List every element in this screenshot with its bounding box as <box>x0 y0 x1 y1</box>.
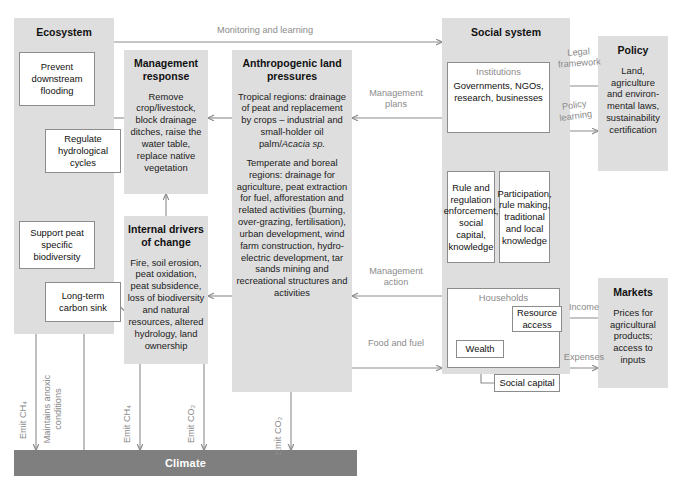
box-wealth-label: Wealth <box>465 343 494 355</box>
box-support-peat-biodiversity-label: Support peat specific biodiversity <box>22 227 92 262</box>
edge-label-management-action: Management action <box>360 266 432 288</box>
box-participation[interactable]: Participation, rule making, traditional … <box>499 171 550 263</box>
panel-social-system-title: Social system <box>442 18 570 39</box>
box-institutions[interactable]: Institutions Governments, NGOs, research… <box>447 62 550 133</box>
vlabel-maintains-anoxic-conditions: Maintains anoxic conditions <box>42 353 64 465</box>
panel-policy-body: Land, agriculture and environ-mental law… <box>602 65 664 136</box>
vlabel-emit-co2-anthropogenic: Emit CO₂ <box>273 417 284 455</box>
edge-label-legal-framework: Legal framework <box>551 45 606 71</box>
edge-label-expenses: Expenses <box>560 352 608 363</box>
box-long-term-carbon-sink-label: Long-term carbon sink <box>48 290 118 314</box>
anthropogenic-paragraph-tropical: Tropical regions: drainage of peat and r… <box>236 91 348 150</box>
box-long-term-carbon-sink[interactable]: Long-term carbon sink <box>45 282 121 322</box>
anthropogenic-acacia-species: Acacia sp. <box>282 138 325 149</box>
box-support-peat-biodiversity[interactable]: Support peat specific biodiversity <box>19 221 95 269</box>
box-resource-access[interactable]: Resource access <box>512 306 562 332</box>
climate-bar-label: Climate <box>165 457 206 469</box>
panel-anthropogenic-title: Anthropogenic land pressures <box>236 57 348 83</box>
box-prevent-downstream-flooding[interactable]: Prevent downstream flooding <box>19 52 95 106</box>
panel-management-response: Management response Remove crop/livestoc… <box>124 50 208 194</box>
box-social-capital-label: Social capital <box>499 377 554 389</box>
vlabel-emit-ch4-ecosystem: Emit CH₄ <box>18 401 29 439</box>
box-participation-label: Participation, rule making, traditional … <box>497 188 551 247</box>
panel-markets-body: Prices for agricultural products; access… <box>602 307 664 366</box>
panel-ecosystem-title: Ecosystem <box>14 18 114 39</box>
box-institutions-heading: Institutions <box>476 66 521 78</box>
panel-anthropogenic-body: Tropical regions: drainage of peat and r… <box>236 91 348 299</box>
panel-policy-title: Policy <box>602 44 664 57</box>
anthropogenic-paragraph-temperate: Temperate and boreal regions: drainage f… <box>236 157 348 299</box>
box-regulate-hydrological-cycles-label: Regulate hydrological cycles <box>48 133 118 168</box>
box-households-heading: Households <box>479 292 529 304</box>
panel-markets-title: Markets <box>602 286 664 299</box>
panel-markets: Markets Prices for agricultural products… <box>598 278 668 388</box>
box-rule-and-regulation[interactable]: Rule and regulation enforcement, social … <box>447 171 495 263</box>
box-social-capital[interactable]: Social capital <box>494 374 560 392</box>
edge-label-food-and-fuel: Food and fuel <box>362 338 430 349</box>
edge-label-income: Income <box>562 302 606 313</box>
panel-internal-drivers-body: Fire, soil erosion, peat oxidation, peat… <box>127 257 205 352</box>
edge-label-monitoring-and-learning: Monitoring and learning <box>180 25 350 36</box>
vlabel-emit-ch4-drivers: Emit CH₄ <box>122 405 133 443</box>
panel-anthropogenic-land-pressures: Anthropogenic land pressures Tropical re… <box>232 50 352 392</box>
vlabel-emit-co2-drivers: Emit CO₂ <box>186 405 197 443</box>
box-institutions-body: Governments, NGOs, research, businesses <box>450 80 547 104</box>
panel-policy: Policy Land, agriculture and environ-men… <box>598 36 668 171</box>
box-rule-and-regulation-label: Rule and regulation enforcement, social … <box>444 182 499 253</box>
panel-internal-drivers-title: Internal drivers of change <box>127 223 205 249</box>
panel-management-response-title: Management response <box>128 57 204 83</box>
diagram-canvas: Ecosystem Prevent downstream flooding Re… <box>0 0 675 484</box>
box-regulate-hydrological-cycles[interactable]: Regulate hydrological cycles <box>45 129 121 173</box>
panel-management-response-body: Remove crop/livestock, block drainage di… <box>128 91 204 174</box>
box-resource-access-label: Resource access <box>515 307 559 331</box>
climate-bar: Climate <box>14 450 357 476</box>
edge-label-management-plans: Management plans <box>360 88 432 110</box>
box-prevent-downstream-flooding-label: Prevent downstream flooding <box>22 61 92 96</box>
box-wealth[interactable]: Wealth <box>456 340 504 358</box>
panel-internal-drivers: Internal drivers of change Fire, soil er… <box>124 216 208 364</box>
